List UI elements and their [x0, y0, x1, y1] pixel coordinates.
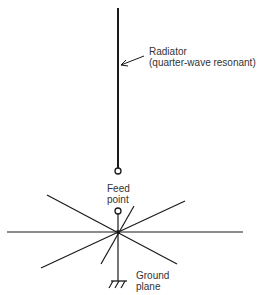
- radiator-sublabel: (quarter-wave resonant): [149, 57, 256, 68]
- ground-symbol-icon: [109, 281, 127, 288]
- ground-plane-label: Ground: [136, 270, 169, 281]
- radiator-arrow: [121, 56, 144, 65]
- ground-plane-sublabel: plane: [136, 281, 160, 292]
- feed-point-sublabel: point: [107, 194, 129, 205]
- radiator-label: Radiator: [149, 46, 187, 57]
- antenna-diagram: Radiator (quarter-wave resonant) Feed po…: [0, 0, 257, 295]
- feed-terminal-top: [115, 168, 121, 174]
- diagram-graphic: [0, 0, 257, 295]
- radial-diag-2: [41, 201, 185, 268]
- feed-point-label: Feed: [107, 183, 130, 194]
- radial-diag-1: [47, 195, 177, 264]
- feed-terminal-bottom: [115, 208, 121, 214]
